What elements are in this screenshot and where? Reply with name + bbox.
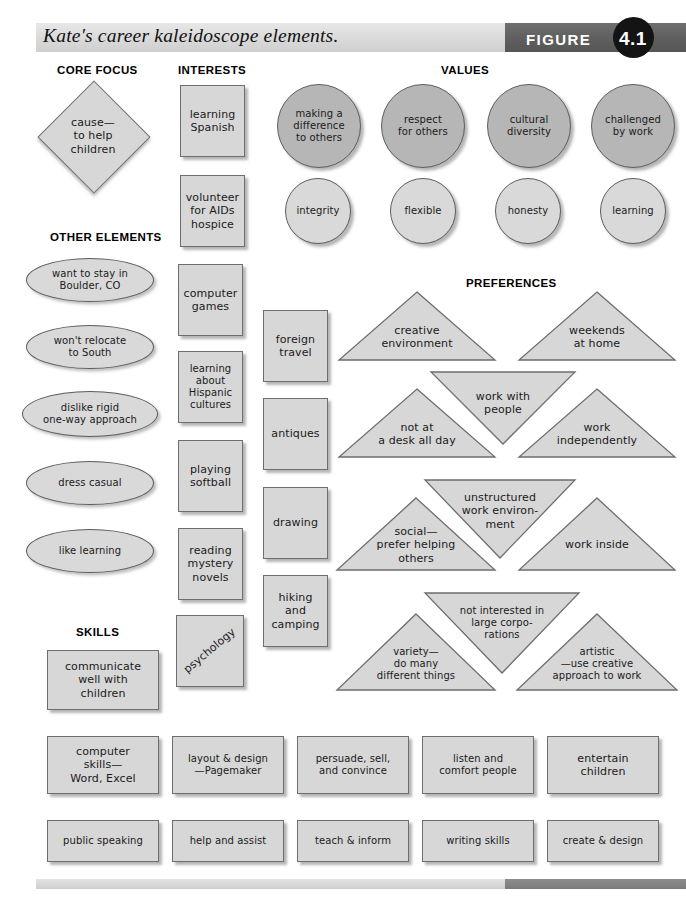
interest-square: readingmysterynovels [178, 528, 243, 600]
interest-square: foreigntravel [263, 310, 328, 382]
interest-label: computergames [184, 287, 238, 314]
skill-label: entertainchildren [577, 752, 628, 779]
preference-label: weekendsat home [569, 324, 625, 351]
skill-label: create & design [563, 835, 644, 847]
interest-label: playingsoftball [190, 463, 231, 490]
interest-label: foreigntravel [276, 333, 315, 360]
other-element-oval: want to stay inBoulder, CO [26, 258, 154, 302]
page-title: Kate's career kaleidoscope elements. [43, 25, 338, 47]
skill-box-featured: communicatewell withchildren [47, 650, 159, 710]
other-element-label: dislike rigidone-way approach [43, 402, 137, 426]
skill-label: communicatewell withchildren [65, 660, 141, 700]
skill-box: listen andcomfort people [422, 736, 534, 794]
preference-triangle-down: unstructuredwork environ-ment [424, 479, 576, 559]
value-label: culturaldiversity [507, 114, 551, 138]
skill-box: entertainchildren [547, 736, 659, 794]
value-label: integrity [296, 205, 339, 217]
interest-square: antiques [263, 398, 328, 470]
value-label: respectfor others [398, 114, 448, 138]
skill-box: writing skills [422, 820, 534, 862]
skill-label: public speaking [63, 835, 143, 847]
skill-box: teach & inform [297, 820, 409, 862]
value-circle: learning [600, 178, 666, 244]
interest-square: psychology [176, 615, 244, 687]
value-circle: flexible [390, 178, 456, 244]
value-label: flexible [404, 205, 441, 217]
footer-bar-dark-segment [505, 879, 686, 889]
other-element-label: won't relocateto South [54, 335, 127, 359]
skill-label: writing skills [446, 835, 510, 847]
skill-label: layout & design—Pagemaker [188, 753, 268, 777]
preference-triangle-up: weekendsat home [518, 291, 676, 361]
other-element-oval: won't relocateto South [26, 325, 154, 369]
preference-triangle-up: creativeenvironment [338, 291, 496, 361]
preference-triangle-down: work withpeople [430, 371, 576, 445]
section-heading-values: VALUES [441, 64, 489, 76]
skill-label: computerskills—Word, Excel [70, 745, 136, 785]
value-circle: making adifferenceto others [277, 84, 361, 168]
section-heading-preferences: PREFERENCES [466, 277, 557, 289]
other-element-label: dress casual [58, 477, 121, 489]
skill-label: persuade, sell,and convince [316, 753, 391, 777]
figure-label: FIGURE [526, 31, 591, 48]
skill-box: persuade, sell,and convince [297, 736, 409, 794]
skill-box: layout & design—Pagemaker [172, 736, 284, 794]
other-element-label: like learning [59, 545, 121, 557]
value-circle: respectfor others [381, 84, 465, 168]
section-heading-interests: INTERESTS [178, 64, 246, 76]
skill-label: teach & inform [315, 835, 391, 847]
core-focus-label: cause—to helpchildren [71, 116, 116, 156]
figure-page: Kate's career kaleidoscope elements. FIG… [0, 0, 686, 915]
interest-label: hikingandcamping [271, 591, 319, 631]
interest-square: playingsoftball [178, 440, 243, 512]
section-heading-other-elements: OTHER ELEMENTS [50, 231, 162, 243]
preference-triangle-down: not interested inlarge corpo-rations [424, 592, 580, 674]
value-circle: honesty [495, 178, 561, 244]
interest-square: hikingandcamping [263, 575, 328, 647]
other-element-oval: dislike rigidone-way approach [22, 391, 158, 437]
skill-label: listen andcomfort people [439, 753, 517, 777]
value-label: making adifferenceto others [293, 108, 344, 144]
interest-square: computergames [178, 264, 243, 336]
interest-square: volunteerfor AIDshospice [180, 175, 245, 247]
skill-box: computerskills—Word, Excel [47, 736, 159, 794]
section-heading-core-focus: CORE FOCUS [57, 64, 138, 76]
core-focus-diamond: cause—to helpchildren [38, 81, 148, 191]
preference-label: creativeenvironment [381, 324, 452, 351]
interest-label: volunteerfor AIDshospice [186, 191, 240, 231]
value-label: learning [612, 205, 654, 217]
value-label: challengedby work [605, 114, 661, 138]
value-circle: integrity [285, 178, 351, 244]
skill-box: create & design [547, 820, 659, 862]
interest-square: drawing [263, 487, 328, 559]
value-circle: culturaldiversity [487, 84, 571, 168]
value-label: honesty [508, 205, 549, 217]
preference-label: unstructuredwork environ-ment [462, 491, 539, 531]
section-heading-skills: SKILLS [76, 626, 119, 638]
interest-label: psychology [181, 626, 238, 677]
diamond-label-wrap: cause—to helpchildren [38, 81, 148, 191]
skill-box: public speaking [47, 820, 159, 862]
skill-label: help and assist [190, 835, 267, 847]
interest-label: drawing [273, 516, 318, 529]
interest-square: learningSpanish [180, 85, 245, 157]
interest-label: readingmysterynovels [188, 544, 234, 584]
other-element-oval: dress casual [26, 461, 154, 505]
interest-label: antiques [271, 427, 319, 440]
interest-square: learningaboutHispaniccultures [178, 351, 243, 423]
interest-label: learningaboutHispaniccultures [189, 363, 232, 411]
preference-label: not interested inlarge corpo-rations [460, 605, 544, 641]
other-element-oval: like learning [26, 529, 154, 573]
other-element-label: want to stay inBoulder, CO [52, 268, 128, 292]
preference-label: work withpeople [476, 390, 530, 417]
value-circle: challengedby work [591, 84, 675, 168]
skill-box: help and assist [172, 820, 284, 862]
interest-label: learningSpanish [190, 108, 236, 135]
figure-number: 4.1 [619, 28, 647, 50]
